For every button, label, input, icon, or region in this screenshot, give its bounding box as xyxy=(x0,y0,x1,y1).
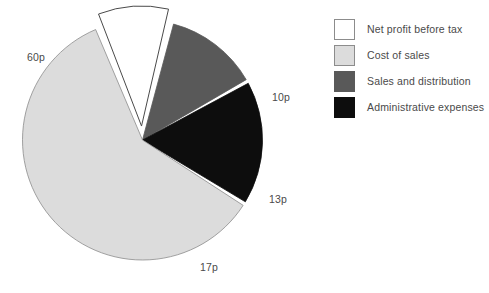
legend-label-administrative-expenses: Administrative expenses xyxy=(367,102,484,113)
pie-chart-figure: 60p 10p 13p 17p Net profit before tax Co… xyxy=(0,0,489,293)
legend-label-sales-and-distribution: Sales and distribution xyxy=(367,76,471,87)
legend-swatch-administrative-expenses xyxy=(334,97,355,118)
legend-swatch-net-profit-before-tax xyxy=(334,19,355,40)
legend-item-administrative-expenses: Administrative expenses xyxy=(334,94,486,120)
legend-swatch-cost-of-sales xyxy=(334,45,355,66)
chart-legend: Net profit before tax Cost of sales Sale… xyxy=(334,16,486,120)
slice-label-cost-of-sales: 60p xyxy=(27,52,45,63)
legend-item-sales-and-distribution: Sales and distribution xyxy=(334,68,486,94)
legend-label-cost-of-sales: Cost of sales xyxy=(367,50,430,61)
legend-item-net-profit-before-tax: Net profit before tax xyxy=(334,16,486,42)
slice-label-administrative-expenses: 17p xyxy=(200,262,218,273)
legend-item-cost-of-sales: Cost of sales xyxy=(334,42,486,68)
slice-label-net-profit-before-tax: 10p xyxy=(272,92,290,103)
legend-swatch-sales-and-distribution xyxy=(334,71,355,92)
legend-label-net-profit-before-tax: Net profit before tax xyxy=(367,24,462,35)
slice-label-sales-and-distribution: 13p xyxy=(269,194,287,205)
